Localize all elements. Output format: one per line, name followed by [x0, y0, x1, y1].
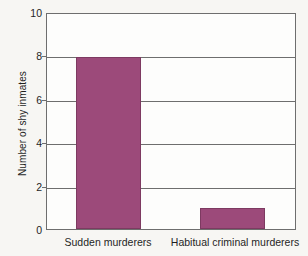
x-category-label-0: Sudden murderers — [46, 236, 170, 248]
x-category-label-1: Habitual criminal murderers — [168, 236, 302, 248]
plot-area — [46, 13, 296, 230]
y-tick-label-8: 8 — [16, 51, 42, 62]
bar-chart: Number of shy inmates 0 2 4 6 8 10 Sudde… — [0, 0, 308, 256]
y-tick-label-4: 4 — [16, 138, 42, 149]
y-tick-label-2: 2 — [16, 182, 42, 193]
y-axis-title: Number of shy inmates — [17, 44, 28, 204]
bar-habitual-criminal-murderers — [200, 208, 265, 230]
bar-sudden-murderers — [76, 57, 141, 229]
y-tick-label-0: 0 — [16, 225, 42, 236]
y-tick-label-10: 10 — [16, 8, 42, 19]
y-tick-label-6: 6 — [16, 95, 42, 106]
